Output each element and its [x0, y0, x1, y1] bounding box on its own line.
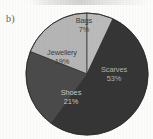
panel-label-b: b): [6, 13, 15, 24]
pie-chart-figure: b) Bags 7% Jewellery 19%: [0, 0, 153, 139]
pie-graphic: [25, 10, 149, 136]
scan-artifact: [30, 0, 148, 5]
pie-svg: [25, 10, 149, 136]
pie-chart: Bags 7% Jewellery 19% Shoes 21% Scarves …: [25, 10, 149, 136]
